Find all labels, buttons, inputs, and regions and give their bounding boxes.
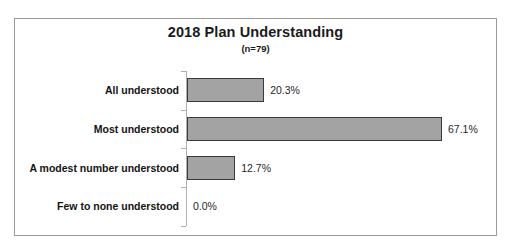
bar-value-label: 0.0% [193,200,217,212]
bar-value-label: 20.3% [270,84,300,96]
bar[interactable] [187,156,235,180]
category-label: All understood [15,71,179,110]
category-label: A modest number understood [15,148,179,187]
chart-title: 2018 Plan Understanding [15,24,496,40]
bar-area: 0.0% [187,187,498,226]
category-label: Most understood [15,110,179,149]
bar-area: 67.1% [187,110,498,149]
bar-value-label: 12.7% [241,162,271,174]
axis-tick [181,226,186,227]
plot-area: All understood 20.3% Most understood 67.… [15,53,498,237]
bar[interactable] [187,78,264,102]
bar-area: 12.7% [187,148,498,187]
bar[interactable] [187,117,442,141]
bar-area: 20.3% [187,71,498,110]
bar-row: Few to none understood 0.0% [15,187,498,226]
chart-container: 2018 Plan Understanding (n=79) All under… [14,18,497,236]
bar-row: A modest number understood 12.7% [15,148,498,187]
bar-value-label: 67.1% [448,123,478,135]
bar-row: All understood 20.3% [15,71,498,110]
category-label: Few to none understood [15,187,179,226]
bar-row: Most understood 67.1% [15,110,498,149]
